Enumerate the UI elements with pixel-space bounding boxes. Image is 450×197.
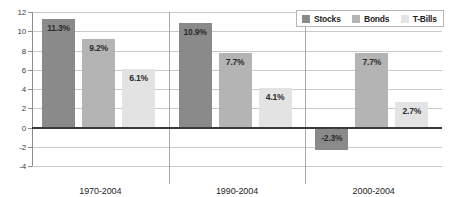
zero-baseline xyxy=(32,127,442,129)
y-axis-tick-label: 0 xyxy=(22,123,26,132)
y-axis-line xyxy=(32,12,33,166)
bar-value-label: 7.7% xyxy=(355,57,388,67)
y-axis-tick-label: 12 xyxy=(18,8,27,17)
legend-swatch-icon xyxy=(401,15,409,23)
legend-label: Stocks xyxy=(314,14,341,24)
y-axis-tick-label: -2 xyxy=(19,142,26,151)
y-axis-tick-label: 8 xyxy=(22,46,26,55)
x-axis-category-label: 2000-2004 xyxy=(353,186,395,196)
legend-label: T-Bills xyxy=(413,14,437,24)
y-axis-tick-label: 4 xyxy=(22,85,26,94)
bar-value-label: 2.7% xyxy=(395,106,428,116)
bar-value-label: 10.9% xyxy=(179,27,212,37)
bar-chart: 121086420-2-411.3%9.2%6.1%1970-200410.9%… xyxy=(0,0,450,197)
bar-value-label: 4.1% xyxy=(259,92,292,102)
y-axis-tick-label: -4 xyxy=(19,162,26,171)
bar-stocks-1990-2004 xyxy=(179,23,212,128)
x-axis-category-label: 1970-2004 xyxy=(79,186,121,196)
group-separator xyxy=(169,12,170,184)
x-axis-category-label: 1990-2004 xyxy=(216,186,258,196)
legend-swatch-icon xyxy=(302,15,310,23)
y-axis-tick-label: 10 xyxy=(18,27,27,36)
gridline xyxy=(32,147,442,148)
legend-item-bonds[interactable]: Bonds xyxy=(347,14,396,24)
bar-stocks-1970-2004 xyxy=(42,19,75,128)
bar-value-label: 9.2% xyxy=(82,43,115,53)
bar-value-label: 6.1% xyxy=(122,73,155,83)
legend-swatch-icon xyxy=(352,15,360,23)
chart-legend: StocksBondsT-Bills xyxy=(296,10,444,27)
bar-value-label: -2.3% xyxy=(315,133,348,143)
legend-label: Bonds xyxy=(364,14,389,24)
legend-item-stocks[interactable]: Stocks xyxy=(297,14,347,24)
y-axis-tick-label: 6 xyxy=(22,65,26,74)
y-axis-tick-label: 2 xyxy=(22,104,26,113)
plot-area: 121086420-2-411.3%9.2%6.1%1970-200410.9%… xyxy=(32,12,442,166)
gridline xyxy=(32,31,442,32)
group-separator xyxy=(305,12,306,184)
bar-value-label: 7.7% xyxy=(219,57,252,67)
legend-item-tbills[interactable]: T-Bills xyxy=(396,14,443,24)
axis-bottom-line xyxy=(32,166,442,167)
bar-value-label: 11.3% xyxy=(42,23,75,33)
